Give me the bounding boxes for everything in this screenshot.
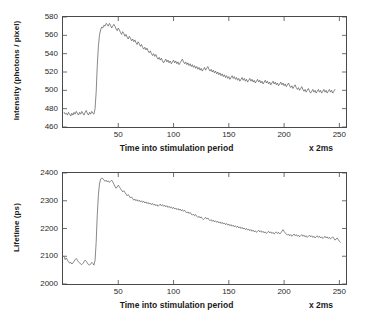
x-tick-label: 200	[269, 287, 299, 296]
chart-panel-lifetime: Lifetime (ps) 20002100220023002400 50100…	[0, 161, 366, 321]
x-tick-label: 100	[159, 287, 189, 296]
x-tick-label: 250	[324, 287, 354, 296]
y-axis-title-lifetime: Lifetime (ps)	[12, 167, 21, 287]
plot-area-intensity	[62, 16, 347, 128]
x-tick-label: 150	[214, 130, 244, 139]
y-tick-label: 2400	[32, 168, 58, 177]
y-tick-label: 2200	[32, 224, 58, 233]
y-tick-label: 540	[32, 49, 58, 58]
x-tick-label: 250	[324, 130, 354, 139]
x-axis-unit-lifetime: x 2ms	[309, 300, 333, 310]
y-tick-label: 560	[32, 30, 58, 39]
x-tick-label: 50	[103, 130, 133, 139]
y-tick-label: 500	[32, 85, 58, 94]
plot-area-lifetime	[62, 172, 347, 285]
figure-root: Intensity (photons / pixel) 460480500520…	[0, 0, 366, 321]
trace-lifetime	[63, 173, 346, 284]
y-tick-label: 480	[32, 104, 58, 113]
x-axis-title-lifetime: Time into stimulation period	[34, 300, 319, 310]
y-tick-label: 460	[32, 122, 58, 131]
x-tick-label: 100	[159, 130, 189, 139]
y-axis-title-intensity: Intensity (photons / pixel)	[12, 11, 21, 131]
x-tick-label: 200	[269, 130, 299, 139]
chart-panel-intensity: Intensity (photons / pixel) 460480500520…	[0, 0, 366, 160]
y-tick-label: 2300	[32, 196, 58, 205]
x-tick-label: 150	[214, 287, 244, 296]
y-tick-label: 2000	[32, 279, 58, 288]
y-tick-label: 2100	[32, 251, 58, 260]
x-axis-unit-intensity: x 2ms	[309, 143, 333, 153]
trace-intensity	[63, 17, 346, 127]
x-tick-label: 50	[103, 287, 133, 296]
y-tick-label: 580	[32, 12, 58, 21]
y-tick-label: 520	[32, 67, 58, 76]
x-axis-title-intensity: Time into stimulation period	[34, 143, 319, 153]
